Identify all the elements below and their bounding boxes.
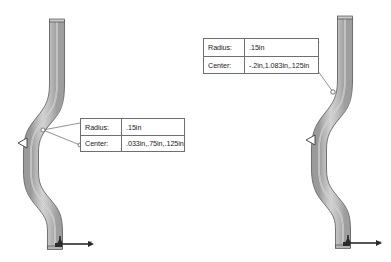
callout-value-center-left: .033in,.75in,.125in [122,136,184,151]
axis-x-label-right: x [378,239,381,245]
pipe-top-cap-left [50,19,65,22]
callout-label-center-left: Center: [81,136,122,151]
callout-value-center-right: -.2in,1.083in,.125in [245,57,309,73]
callout-row-center-left: Center: .033in,.75in,.125in [81,135,184,151]
cad-viewport: Radius: .15in Center: .033in,.75in,.125i… [0,0,391,262]
cad-drawing-canvas [0,0,391,262]
callout-row-radius-left: Radius: .15in [81,119,184,135]
bend-vertex-marker-right[interactable] [306,135,315,145]
axis-x-label-left: x [89,239,92,245]
callout-value-radius-right: .15in [245,39,264,56]
callout-label-radius-right: Radius: [204,39,245,56]
pipe-top-cap-right [338,16,353,19]
leader-anchor-dot-left [41,128,45,132]
pipe-body-right [319,17,345,248]
callout-label-radius-left: Radius: [81,119,122,135]
callout-box-left[interactable]: Radius: .15in Center: .033in,.75in,.125i… [80,118,185,152]
pipe-outer-fill-right [319,17,345,248]
callout-row-center-right: Center: -.2in,1.083in,.125in [204,56,318,73]
leader-anchor-dot-right [331,90,335,94]
callout-box-right[interactable]: Radius: .15in Center: -.2in,1.083in,.125… [203,38,319,74]
callout-label-center-right: Center: [204,57,245,73]
callout-value-radius-left: .15in [122,119,141,135]
callout-row-radius-right: Radius: .15in [204,39,318,56]
bend-vertex-marker-left[interactable] [18,138,27,148]
